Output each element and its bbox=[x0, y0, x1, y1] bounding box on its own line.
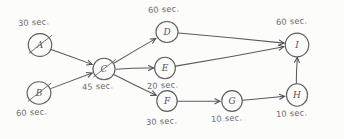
node-e[interactable]: E bbox=[155, 57, 176, 78]
edge-line bbox=[116, 68, 153, 69]
edge-f-to-g bbox=[178, 99, 220, 104]
duration-label-d: 60 sec. bbox=[148, 3, 180, 15]
node-b[interactable]: B bbox=[27, 82, 51, 104]
node-letter: G bbox=[228, 96, 235, 106]
node-letter: H bbox=[292, 90, 301, 100]
node-a[interactable]: A bbox=[28, 34, 52, 57]
duration-label-a: 30 sec. bbox=[18, 16, 50, 28]
node-f[interactable]: F bbox=[157, 91, 177, 112]
edge-c-to-d bbox=[114, 39, 155, 63]
node-i[interactable]: I bbox=[285, 33, 308, 57]
duration-label-g: 10 sec. bbox=[211, 112, 243, 124]
edge-h-to-i bbox=[294, 57, 299, 83]
node-g[interactable]: G bbox=[222, 91, 242, 112]
node-letter: I bbox=[294, 40, 299, 50]
duration-label-i: 60 sec. bbox=[276, 15, 308, 27]
edge-g-to-h bbox=[243, 94, 285, 100]
edge-e-to-i bbox=[176, 45, 284, 66]
node-letter: F bbox=[163, 96, 171, 106]
edge-line bbox=[296, 57, 297, 83]
edge-c-to-e bbox=[116, 65, 153, 70]
edge-line bbox=[243, 96, 285, 100]
edge-d-to-i bbox=[179, 33, 285, 45]
edge-line bbox=[176, 47, 284, 66]
duration-label-b: 60 sec. bbox=[16, 106, 48, 118]
edge-line bbox=[179, 33, 285, 43]
node-letter: E bbox=[161, 63, 169, 73]
duration-label-f: 30 sec. bbox=[146, 115, 178, 127]
node-h[interactable]: H bbox=[286, 84, 307, 107]
edge-a-to-c bbox=[51, 50, 92, 65]
duration-label-h: 10 sec. bbox=[276, 107, 308, 119]
edge-line bbox=[114, 39, 155, 63]
duration-label-e: 20 sec. bbox=[147, 79, 179, 91]
node-d[interactable]: D bbox=[156, 21, 178, 42]
duration-label-c: 45 sec. bbox=[82, 80, 114, 92]
diagram-canvas: ABCDEFGHI 30 sec.60 sec.45 sec.60 sec.20… bbox=[0, 0, 344, 139]
edge-line bbox=[51, 50, 92, 65]
node-c[interactable]: C bbox=[93, 58, 116, 79]
node-letter: D bbox=[162, 27, 170, 37]
